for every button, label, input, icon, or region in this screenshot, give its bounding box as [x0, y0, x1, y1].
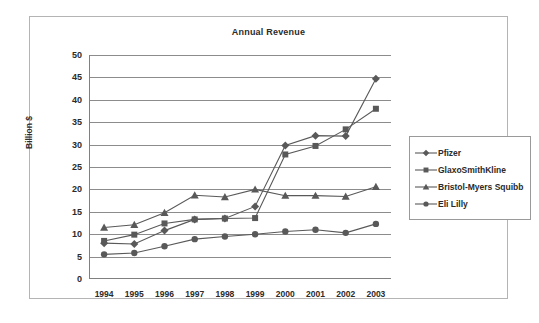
circle-marker-icon: [414, 197, 438, 211]
legend-label: GlaxoSmithKline: [438, 165, 506, 175]
y-axis-tick-label: 25: [56, 162, 82, 172]
series-glaxosmithkline: [101, 106, 379, 244]
data-point-marker: [192, 216, 198, 222]
x-axis-tick-label: 1996: [155, 289, 174, 299]
y-axis-tick-label: 45: [56, 72, 82, 82]
data-point-marker: [312, 132, 320, 140]
series-bristol-myers-squibb: [100, 183, 380, 231]
y-axis-tick-label: 10: [56, 229, 82, 239]
data-point-marker: [281, 141, 289, 149]
data-point-marker: [372, 75, 380, 83]
series-line: [104, 187, 376, 228]
y-axis-tick-label: 15: [56, 207, 82, 217]
x-axis-tick-label: 2000: [276, 289, 295, 299]
series-eli-lilly: [101, 221, 379, 258]
data-point-marker: [101, 251, 107, 257]
data-point-marker: [101, 238, 107, 244]
data-point-marker: [252, 215, 258, 221]
x-axis-tick-label: 1998: [215, 289, 234, 299]
y-axis-tick-label: 0: [56, 274, 82, 284]
legend-label: Pfizer: [438, 148, 461, 158]
y-axis-title: Billion $: [24, 116, 34, 149]
data-point-marker: [373, 221, 379, 227]
data-point-marker: [313, 143, 319, 149]
data-point-marker: [131, 250, 137, 256]
y-axis-tick-label: 20: [56, 184, 82, 194]
data-point-marker: [372, 183, 380, 190]
data-point-marker: [252, 231, 258, 237]
legend-item-bristol-myers-squibb[interactable]: Bristol-Myers Squibb: [414, 178, 525, 195]
legend-label: Eli Lilly: [438, 199, 468, 209]
x-axis-tick-label: 2003: [366, 289, 385, 299]
x-axis-tick-labels: 1994199519961997199819992000200120022003: [89, 289, 391, 303]
square-marker-icon: [414, 163, 438, 177]
y-axis-tick-labels: 05101520253035404550: [50, 55, 82, 279]
data-point-marker: [130, 221, 138, 228]
data-point-marker: [251, 202, 259, 210]
x-axis-tick-label: 2001: [306, 289, 325, 299]
data-point-marker: [161, 209, 169, 216]
data-point-marker: [191, 191, 199, 198]
data-point-marker: [222, 233, 228, 239]
data-point-marker: [282, 228, 288, 234]
diamond-marker-icon: [414, 146, 438, 160]
legend-item-glaxosmithkline[interactable]: GlaxoSmithKline: [414, 161, 525, 178]
legend-item-pfizer[interactable]: Pfizer: [414, 144, 525, 161]
data-point-marker: [373, 106, 379, 112]
y-axis-tick-label: 40: [56, 95, 82, 105]
x-axis-tick-label: 2002: [336, 289, 355, 299]
plot-area: [89, 55, 391, 279]
data-point-marker: [162, 220, 168, 226]
data-point-marker: [192, 236, 198, 242]
chart-title: Annual Revenue: [30, 27, 507, 37]
chart-legend: PfizerGlaxoSmithKlineBristol-Myers Squib…: [409, 136, 531, 220]
data-point-marker: [161, 227, 169, 235]
data-point-marker: [222, 216, 228, 222]
data-point-marker: [161, 243, 167, 249]
data-series-layer: [89, 55, 391, 279]
data-point-marker: [130, 240, 138, 248]
data-point-marker: [312, 227, 318, 233]
data-point-marker: [343, 230, 349, 236]
data-point-marker: [131, 232, 137, 238]
legend-item-eli-lilly[interactable]: Eli Lilly: [414, 195, 525, 212]
y-axis-tick-label: 5: [56, 252, 82, 262]
data-point-marker: [342, 132, 350, 140]
triangle-marker-icon: [414, 180, 438, 194]
y-axis-tick-label: 35: [56, 117, 82, 127]
data-point-marker: [282, 151, 288, 157]
series-line: [104, 79, 376, 244]
data-point-marker: [343, 126, 349, 132]
chart-frame: Annual Revenue Billion $ 051015202530354…: [29, 16, 508, 299]
data-point-marker: [251, 185, 259, 192]
x-axis-tick-label: 1999: [246, 289, 265, 299]
x-axis-tick-label: 1997: [185, 289, 204, 299]
y-axis-tick-label: 30: [56, 140, 82, 150]
x-axis-tick-label: 1995: [125, 289, 144, 299]
legend-label: Bristol-Myers Squibb: [438, 182, 523, 192]
x-axis-tick-label: 1994: [95, 289, 114, 299]
y-axis-tick-label: 50: [56, 50, 82, 60]
